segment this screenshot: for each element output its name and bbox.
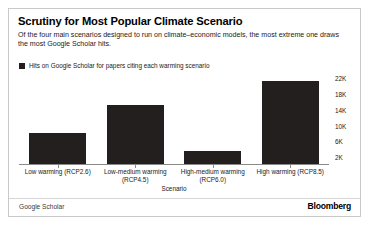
y-axis: 22K18K14K10K6K2K xyxy=(331,75,359,165)
y-axis-tick-label-4: 6K xyxy=(335,138,343,145)
chart-subtitle: Of the four main scenarios designed to r… xyxy=(18,31,340,49)
source-label: Google Scholar xyxy=(19,203,64,210)
chart-legend: Hits on Google Scholar for papers citing… xyxy=(19,62,209,69)
legend-swatch-icon xyxy=(19,63,25,69)
chart-header: Scrutiny for Most Popular Climate Scenar… xyxy=(18,15,351,49)
footer-divider xyxy=(9,198,360,199)
y-axis-tick-label-1: 18K xyxy=(335,90,346,97)
x-axis-title: Scenario xyxy=(19,185,329,192)
x-axis-label-0: Low warming (RCP2.6) xyxy=(19,168,97,176)
bar-0[interactable] xyxy=(29,133,86,164)
bar-3[interactable] xyxy=(262,81,319,164)
x-axis-label-line: Low-medium warming xyxy=(97,168,175,176)
x-axis-label-line: (RCP6.0) xyxy=(174,176,252,184)
chart-card: Scrutiny for Most Popular Climate Scenar… xyxy=(8,8,361,217)
bloomberg-logo: Bloomberg xyxy=(307,201,351,211)
y-axis-tick-label-3: 10K xyxy=(335,122,346,129)
y-axis-tick-label-0: 22K xyxy=(335,75,346,82)
y-axis-tick-label-2: 14K xyxy=(335,106,346,113)
x-axis-label-line: (RCP4.5) xyxy=(97,176,175,184)
x-axis-label-2: High-medium warming(RCP6.0) xyxy=(174,168,252,185)
x-axis-baseline xyxy=(19,164,329,165)
x-axis-label-1: Low-medium warming(RCP4.5) xyxy=(97,168,175,185)
legend-item-label: Hits on Google Scholar for papers citing… xyxy=(29,62,209,69)
chart-title: Scrutiny for Most Popular Climate Scenar… xyxy=(18,15,351,28)
plot-area xyxy=(19,75,329,165)
bar-2[interactable] xyxy=(184,151,241,164)
x-axis-label-line: Low warming (RCP2.6) xyxy=(19,168,97,176)
x-axis-label-3: High warming (RCP8.5) xyxy=(252,168,330,176)
x-axis-label-line: High-medium warming xyxy=(174,168,252,176)
y-axis-tick-label-5: 2K xyxy=(335,154,343,161)
bar-1[interactable] xyxy=(107,105,164,164)
x-axis-label-line: High warming (RCP8.5) xyxy=(252,168,330,176)
